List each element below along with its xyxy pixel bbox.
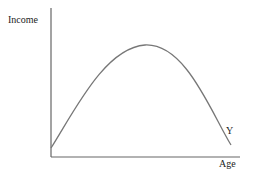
x-axis-label: Age (219, 159, 236, 169)
chart-canvas (0, 0, 253, 169)
y-axis-label: Income (8, 15, 38, 25)
series-label-y: Y (226, 126, 233, 136)
income-curve-y (51, 45, 231, 148)
income-age-chart: Income Age Y (0, 0, 253, 169)
